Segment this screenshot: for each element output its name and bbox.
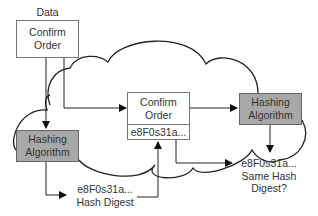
transmitted-message-box: Confirm Order e8F0s31a...: [127, 92, 190, 140]
sender-digest-caption: Hash Digest: [72, 196, 138, 209]
receiver-hash-digest: e8F0s31a... Same Hash Digest?: [236, 157, 302, 195]
sender-hashing-line2: Algorithm: [17, 146, 78, 159]
receiver-hashing-line1: Hashing: [240, 96, 301, 109]
sender-digest-value: e8F0s31a...: [72, 183, 138, 196]
sender-hash-digest: e8F0s31a... Hash Digest: [72, 183, 138, 208]
sender-hashing-line1: Hashing: [17, 133, 78, 146]
receiver-hashing-algorithm-box: Hashing Algorithm: [239, 93, 302, 125]
transmitted-message-line1: Confirm: [128, 96, 189, 109]
receiver-digest-caption2: Digest?: [236, 182, 302, 195]
receiver-hashing-line2: Algorithm: [240, 109, 301, 122]
data-label: Data: [16, 6, 79, 19]
sender-message-box: Confirm Order: [16, 20, 79, 58]
transmitted-digest: e8F0s31a...: [131, 126, 186, 139]
sender-message-line2: Order: [17, 39, 78, 52]
sender-message-line1: Confirm: [17, 26, 78, 39]
sender-hashing-algorithm-box: Hashing Algorithm: [16, 130, 79, 162]
transmitted-message-line2: Order: [128, 109, 189, 122]
receiver-digest-caption1: Same Hash: [236, 170, 302, 183]
receiver-digest-value: e8F0s31a...: [236, 157, 302, 170]
